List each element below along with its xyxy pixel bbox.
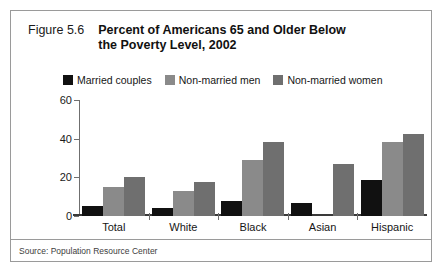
- bar: [82, 206, 103, 216]
- bar: [263, 142, 284, 216]
- x-axis-label: Black: [240, 221, 267, 233]
- x-axis-label: Hispanic: [371, 221, 413, 233]
- source-note: Source: Population Resource Center: [19, 246, 157, 256]
- y-axis-tick-label: 40: [60, 133, 72, 145]
- x-axis-group-divider: [288, 213, 289, 220]
- x-axis-label: Total: [102, 221, 125, 233]
- plot-area: 0204060TotalWhiteBlackAsianHispanic: [79, 100, 427, 216]
- bar-group: [357, 100, 427, 216]
- x-axis-group-divider: [357, 213, 358, 220]
- x-axis-group-divider: [149, 213, 150, 220]
- bar: [124, 177, 145, 216]
- bar-group: [218, 100, 288, 216]
- bar: [242, 160, 263, 216]
- bar: [173, 191, 194, 216]
- bar: [333, 164, 354, 216]
- bar-group: [149, 100, 219, 216]
- y-axis-tick-label: 0: [66, 210, 72, 222]
- y-axis-tick-mark: [74, 216, 79, 217]
- bar: [382, 142, 403, 216]
- y-axis-tick-label: 60: [60, 94, 72, 106]
- bar: [403, 134, 424, 216]
- bar-group: [288, 100, 358, 216]
- source-divider: [11, 239, 431, 240]
- bar: [221, 201, 242, 216]
- bar: [361, 180, 382, 216]
- bar: [103, 187, 124, 216]
- chart-plot: 0204060TotalWhiteBlackAsianHispanic: [11, 11, 433, 263]
- bar: [194, 182, 215, 216]
- x-axis-label: Asian: [309, 221, 337, 233]
- x-axis-label: White: [169, 221, 197, 233]
- figure-frame: Figure 5.6 Percent of Americans 65 and O…: [10, 10, 432, 262]
- y-axis-tick-label: 20: [60, 171, 72, 183]
- bar: [291, 203, 312, 216]
- bar-group: [79, 100, 149, 216]
- bar: [152, 208, 173, 216]
- x-axis-group-divider: [218, 213, 219, 220]
